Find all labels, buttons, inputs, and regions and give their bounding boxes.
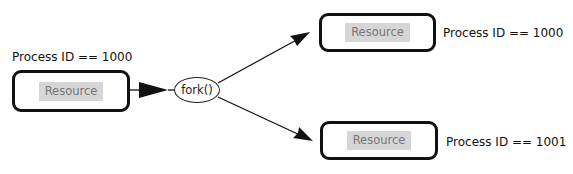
fork-label: fork() [181,83,212,97]
fork-node: fork() [174,77,220,103]
edge-fork-to-child [218,97,313,141]
parent-process-id-label: Process ID == 1000 [12,50,132,64]
edge-parent-to-fork [129,82,175,98]
fork-diagram: Process ID == 1000 Resource fork() Resou… [0,0,573,174]
edge-fork-to-parent-copy [218,32,310,83]
parent-resource: Resource [39,82,104,101]
child-process-id-label: Process ID == 1001 [446,135,566,149]
parent-after-fork-box: Resource [319,13,436,52]
parent-after-fork-id-label: Process ID == 1000 [443,26,563,40]
child-process-box: Resource [320,121,438,160]
parent-process-box: Resource [12,70,130,112]
parent-after-fork-resource: Resource [345,23,410,42]
child-resource: Resource [347,131,412,150]
